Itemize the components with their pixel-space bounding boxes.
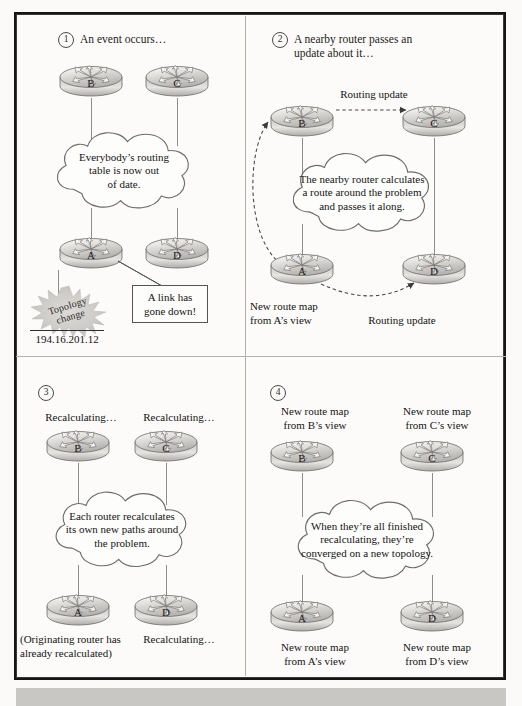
router-label-a-1: A xyxy=(58,249,124,261)
new-route-map-a-caption-4: New route map from A’s view xyxy=(260,641,370,668)
cloud-text-panel-1: Everybody’s routing table is now out of … xyxy=(48,122,200,218)
recalculating-b-caption: Recalculating… xyxy=(28,411,134,425)
routing-update-label-top: Routing update xyxy=(324,88,424,102)
router-a-panel-2: A xyxy=(269,252,335,286)
ip-underline xyxy=(30,330,104,331)
cloud-panel-2: The nearby router calculates a route aro… xyxy=(264,144,460,240)
router-label-d-3: D xyxy=(133,606,199,618)
router-c-panel-2: C xyxy=(401,104,467,138)
new-route-map-d-caption: New route map from D’s view xyxy=(382,641,492,668)
figure-page: 1 An event occurs… Everybody’s routing t… xyxy=(0,0,522,706)
router-label-b-3: B xyxy=(45,442,111,454)
cloud-text-panel-4: When they’re all finished recalculating,… xyxy=(260,491,474,587)
panel-1-heading: 1 An event occurs… xyxy=(58,32,238,48)
router-c-panel-3: C xyxy=(133,429,199,463)
cloud-panel-4: When they’re all finished recalculating,… xyxy=(260,491,474,587)
router-d-panel-2: D xyxy=(401,252,467,286)
panel-2-step-text: A nearby router passes an update about i… xyxy=(294,32,412,60)
panel-2-step-number: 2 xyxy=(272,32,288,48)
panel-4: 4 New route map from B’s view New route … xyxy=(246,357,506,680)
router-d-panel-3: D xyxy=(133,593,199,627)
router-a-panel-1: A xyxy=(58,236,124,270)
panel-1-step-text: An event occurs… xyxy=(80,32,166,46)
router-b-panel-2: B xyxy=(269,104,335,138)
router-label-a-3: A xyxy=(45,606,111,618)
router-label-c-1: C xyxy=(144,77,210,89)
page-bottom-band xyxy=(16,688,506,706)
router-label-a-4: A xyxy=(269,612,335,624)
router-a-panel-3: A xyxy=(45,593,111,627)
cloud-panel-3: Each router recalculates its own new pat… xyxy=(36,483,208,575)
router-label-b-4: B xyxy=(269,452,335,464)
router-label-c-2: C xyxy=(401,117,467,129)
router-label-d-1: D xyxy=(144,249,210,261)
cloud-panel-1: Everybody’s routing table is now out of … xyxy=(48,122,200,218)
ip-address-label: 194.16.201.12 xyxy=(24,333,110,345)
recalculating-d-caption: Recalculating… xyxy=(126,633,232,647)
router-c-panel-1: C xyxy=(144,64,210,98)
panel-4-heading: 4 xyxy=(270,385,310,401)
cloud-text-panel-2: The nearby router calculates a route aro… xyxy=(264,144,460,240)
panel-1-step-number: 1 xyxy=(58,32,74,48)
new-route-map-b-caption: New route map from B’s view xyxy=(260,405,370,432)
link-down-callout: A link has gone down! xyxy=(132,285,208,323)
router-label-d-2: D xyxy=(401,265,467,277)
router-d-panel-1: D xyxy=(144,236,210,270)
routing-update-label-bottom: Routing update xyxy=(352,314,452,328)
panel-1: 1 An event occurs… Everybody’s routing t… xyxy=(14,12,245,356)
router-label-b-2: B xyxy=(269,117,335,129)
router-b-panel-4: B xyxy=(269,439,335,473)
panel-2: 2 A nearby router passes an update about… xyxy=(246,12,506,356)
panel-3-heading: 3 xyxy=(38,385,78,401)
router-label-d-4: D xyxy=(399,612,465,624)
router-c-panel-4: C xyxy=(399,439,465,473)
panel-4-step-number: 4 xyxy=(270,385,286,401)
recalculating-c-caption: Recalculating… xyxy=(126,411,232,425)
panel-3-step-number: 3 xyxy=(38,385,54,401)
router-label-b-1: B xyxy=(58,77,124,89)
router-label-c-4: C xyxy=(399,452,465,464)
router-b-panel-1: B xyxy=(58,64,124,98)
new-route-map-a-caption-2: New route map from A’s view xyxy=(250,300,350,327)
router-d-panel-4: D xyxy=(399,599,465,633)
panel-2-heading: 2 A nearby router passes an update about… xyxy=(272,32,482,60)
router-label-c-3: C xyxy=(133,442,199,454)
panel-3: 3 Recalculating… Recalculating… Each rou… xyxy=(14,357,245,680)
router-b-panel-3: B xyxy=(45,429,111,463)
cloud-text-panel-3: Each router recalculates its own new pat… xyxy=(36,483,208,575)
router-a-panel-4: A xyxy=(269,599,335,633)
router-label-a-2: A xyxy=(269,265,335,277)
new-route-map-c-caption: New route map from C’s view xyxy=(382,405,492,432)
